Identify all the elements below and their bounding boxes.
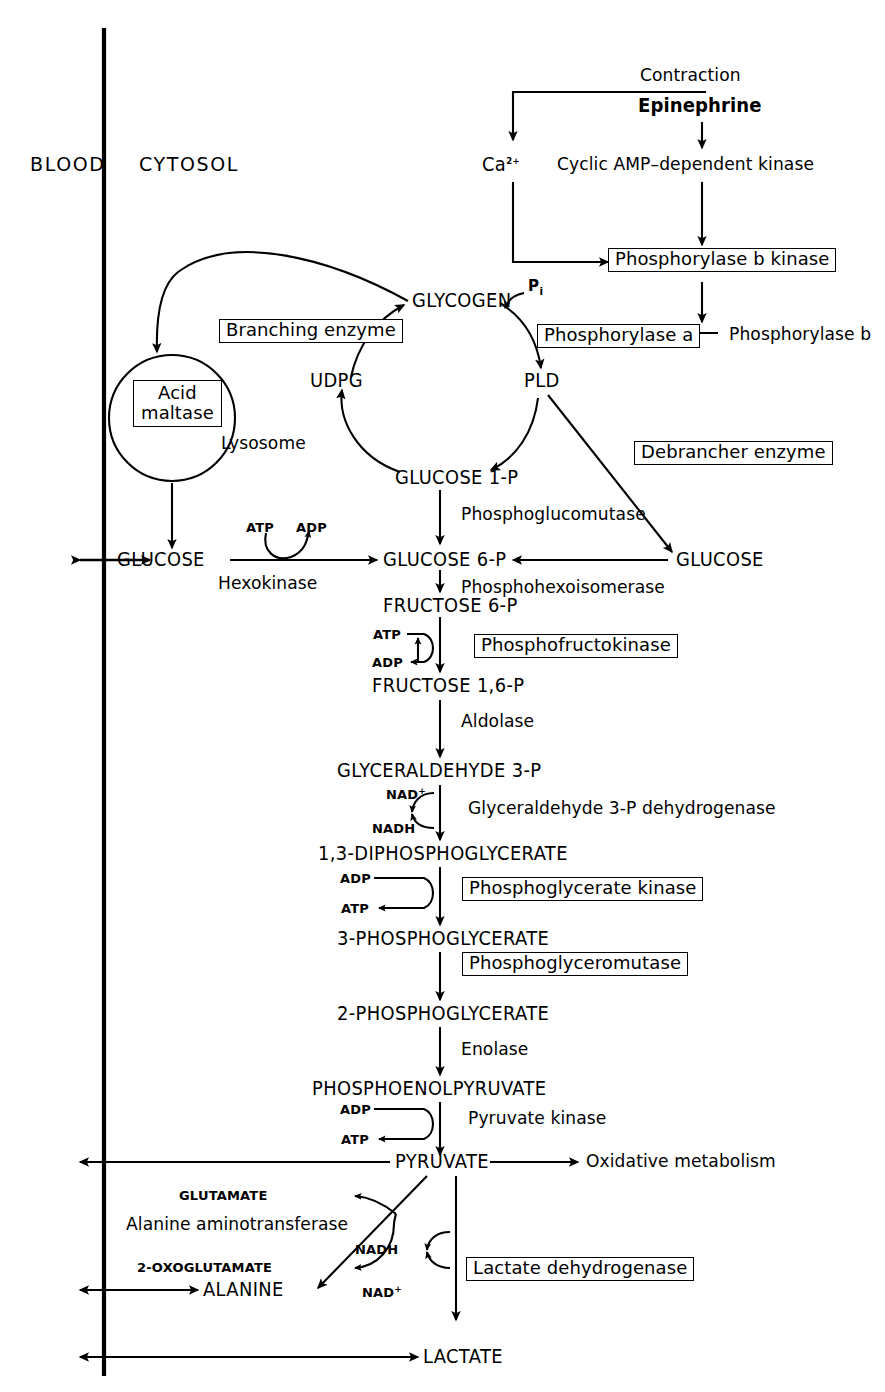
phosphorylase-a-box: Phosphorylase a xyxy=(537,324,700,348)
contraction-label: Contraction xyxy=(640,66,741,84)
cofactor-adp-hexokinase: ADP xyxy=(296,521,327,534)
glycogen-label: GLYCOGEN xyxy=(412,291,511,310)
nad-charge: + xyxy=(418,786,426,796)
aldolase-label: Aldolase xyxy=(461,712,534,730)
cytosol-compartment-label: CYTOSOL xyxy=(139,155,239,174)
metabolite-fructose-6-p: FRUCTOSE 6-P xyxy=(383,596,518,615)
pld-to-glucose-debrancher-arrow xyxy=(548,395,672,552)
calcium-symbol: Ca xyxy=(482,153,506,175)
acid-maltase-line2: maltase xyxy=(141,402,214,423)
metabolite-3-phosphoglycerate: 3-PHOSPHOGLYCERATE xyxy=(337,929,549,948)
pi-subscript: i xyxy=(539,285,543,298)
udpg-label: UDPG xyxy=(310,371,363,390)
calcium-charge: 2+ xyxy=(506,156,520,166)
metabolite-phosphoenolpyruvate: PHOSPHOENOLPYRUVATE xyxy=(312,1079,547,1098)
glucose-1-p-label: GLUCOSE 1-P xyxy=(395,468,519,487)
cofactor-nadh-gapdh: NADH xyxy=(372,822,415,835)
lysosome-label: Lysosome xyxy=(221,434,306,452)
cofactor-adp-pfk: ADP xyxy=(372,656,403,669)
calcium-label: Ca2+ xyxy=(482,155,520,174)
nad-out-ldh-curve xyxy=(427,1252,450,1268)
phosphohexoisomerase-label: Phosphohexoisomerase xyxy=(461,578,665,596)
branching-enzyme-box: Branching enzyme xyxy=(219,319,403,343)
pathway-diagram: BLOOD CYTOSOL Contraction Epinephrine Ca… xyxy=(0,0,885,1392)
cofactor-nadh-ldh: NADH xyxy=(355,1243,398,1256)
cofactor-atp-pgk: ATP xyxy=(341,902,369,915)
cofactor-adp-pgk: ADP xyxy=(340,872,371,885)
pld-label: PLD xyxy=(524,371,560,390)
atp-adp-hexokinase-curve xyxy=(265,531,309,558)
pyruvate-kinase-label: Pyruvate kinase xyxy=(468,1109,606,1127)
pathway-lines-layer xyxy=(0,0,885,1392)
adp-atp-pgk-loop xyxy=(374,878,433,908)
phosphoglucomutase-label: Phosphoglucomutase xyxy=(461,505,646,523)
adp-atp-pk-loop xyxy=(374,1109,433,1139)
epinephrine-label: Epinephrine xyxy=(638,96,762,115)
glutamate-in-curve xyxy=(355,1196,396,1214)
nad-charge-ldh: + xyxy=(394,1284,402,1294)
metabolite-glyceraldehyde-3-p: GLYCERALDEHYDE 3-P xyxy=(337,761,541,780)
phosphoglyceromutase-box: Phosphoglyceromutase xyxy=(462,952,688,976)
phosphorylase-b-label: Phosphorylase b xyxy=(729,325,871,343)
cofactor-atp-pfk: ATP xyxy=(373,628,401,641)
metabolite-1-3-diphosphoglycerate: 1,3-DIPHOSPHOGLYCERATE xyxy=(318,844,568,863)
pld-to-glucose1p-arc xyxy=(491,398,538,470)
metabolite-free-glucose: GLUCOSE xyxy=(676,550,764,569)
cofactor-adp-pk: ADP xyxy=(340,1103,371,1116)
phosphorylase-b-kinase-box: Phosphorylase b kinase xyxy=(608,248,836,272)
oxidative-metabolism-label: Oxidative metabolism xyxy=(586,1152,776,1170)
camp-dependent-kinase-label: Cyclic AMP–dependent kinase xyxy=(557,155,814,173)
cofactor-glutamate: GLUTAMATE xyxy=(179,1189,268,1202)
phosphoglycerate-kinase-box: Phosphoglycerate kinase xyxy=(462,877,703,901)
cofactor-nad-gapdh: NAD+ xyxy=(386,787,426,801)
glucose1p-to-udpg-arc xyxy=(341,390,400,472)
blood-compartment-label: BLOOD xyxy=(30,155,105,174)
calcium-to-pbk-arrow xyxy=(513,182,608,262)
metabolite-alanine: ALANINE xyxy=(203,1280,284,1299)
metabolite-fructose-1-6-p: FRUCTOSE 1,6-P xyxy=(372,676,524,695)
transaminase-curve-join xyxy=(394,1214,396,1224)
metabolite-glucose-6-p: GLUCOSE 6-P xyxy=(383,550,507,569)
atp-adp-pfk-loop xyxy=(407,634,433,662)
phosphofructokinase-box: Phosphofructokinase xyxy=(474,634,678,658)
acid-maltase-line1: Acid xyxy=(158,382,197,403)
hexokinase-label: Hexokinase xyxy=(218,574,317,592)
metabolite-pyruvate: PYRUVATE xyxy=(395,1152,489,1171)
alanine-aminotransferase-label: Alanine aminotransferase xyxy=(126,1215,348,1233)
nad-text: NAD xyxy=(386,787,418,802)
acid-maltase-box: Acid maltase xyxy=(133,380,222,427)
metabolite-glucose: GLUCOSE xyxy=(117,550,205,569)
metabolite-lactate: LACTATE xyxy=(423,1347,503,1366)
cofactor-2-oxoglutamate: 2-OXOGLUTAMATE xyxy=(137,1261,272,1274)
gapdh-label: Glyceraldehyde 3-P dehydrogenase xyxy=(468,799,776,817)
metabolite-2-phosphoglycerate: 2-PHOSPHOGLYCERATE xyxy=(337,1004,549,1023)
inorganic-phosphate-label: Pi xyxy=(528,278,543,297)
cofactor-atp-hexokinase: ATP xyxy=(246,521,274,534)
nad-text-ldh: NAD xyxy=(362,1285,394,1300)
enolase-label: Enolase xyxy=(461,1040,528,1058)
cofactor-nad-ldh: NAD+ xyxy=(362,1285,402,1299)
debrancher-enzyme-box: Debrancher enzyme xyxy=(634,441,833,465)
nadh-in-ldh-curve xyxy=(427,1232,450,1250)
lactate-dehydrogenase-box: Lactate dehydrogenase xyxy=(466,1257,694,1281)
glycogen-to-pld-arc xyxy=(500,303,541,368)
pi-symbol: P xyxy=(528,276,539,295)
cofactor-atp-pk: ATP xyxy=(341,1133,369,1146)
